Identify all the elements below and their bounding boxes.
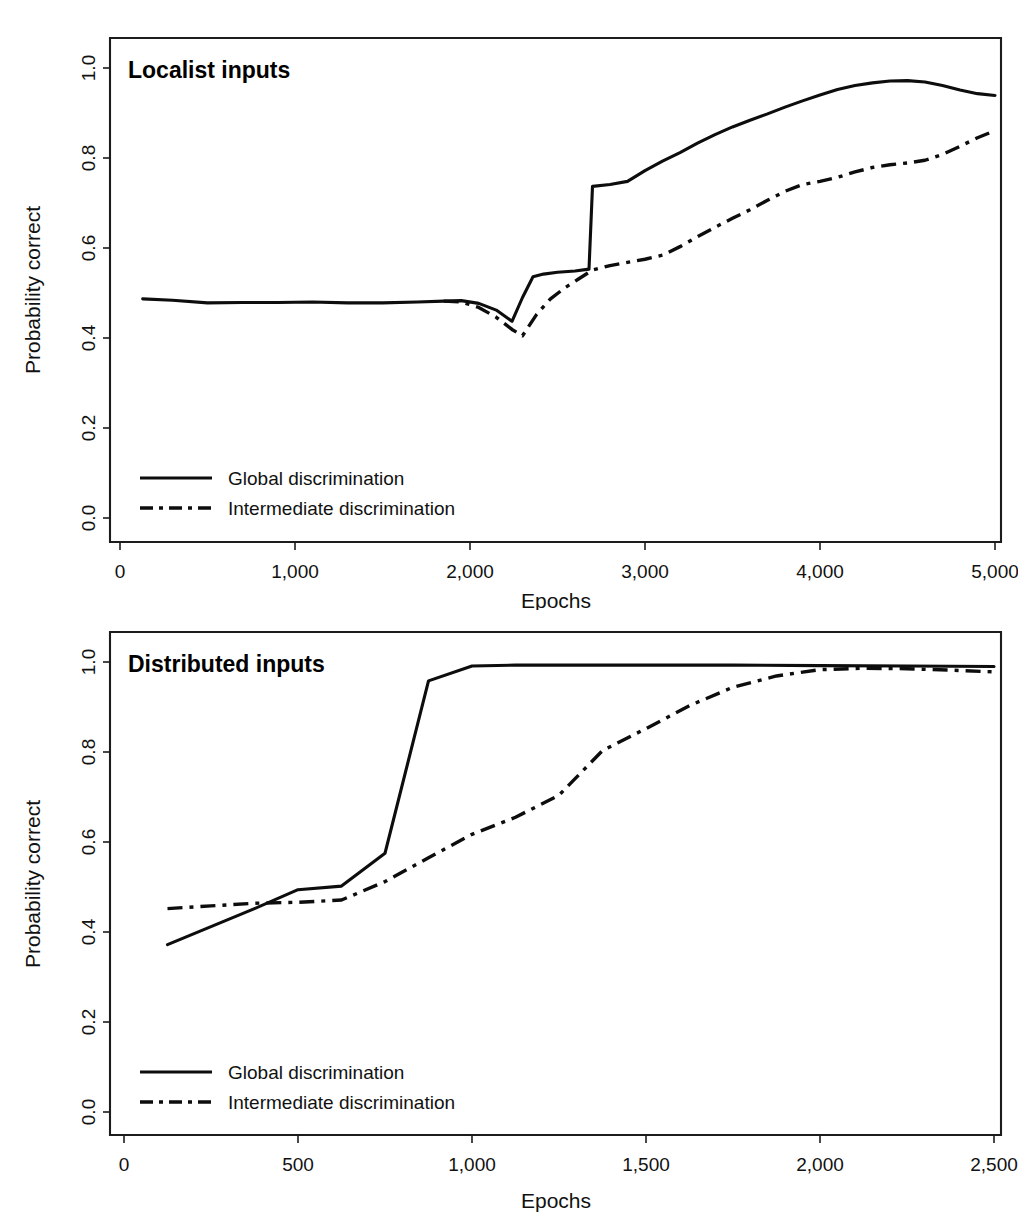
- legend-label-global: Global discrimination: [228, 468, 404, 489]
- series-line-intermediate-localist: [444, 131, 995, 336]
- plot-frame-distributed: [110, 632, 1001, 1135]
- chart-panel-localist: 1.0 0.8 0.6 0.4 0.2 0.0 Probability corr…: [0, 0, 1018, 610]
- panel-title-localist: Localist inputs: [128, 57, 290, 83]
- y-tick-label: 0.0: [78, 1099, 99, 1125]
- x-tick-label: 1,000: [271, 561, 319, 582]
- x-axis-tick-labels-distributed: 0 500 1,000 1,500 2,000 2,500: [119, 1154, 1018, 1175]
- x-tick-label: 0: [119, 1154, 130, 1175]
- localist-svg: 1.0 0.8 0.6 0.4 0.2 0.0 Probability corr…: [0, 0, 1018, 610]
- x-axis-tick-labels-localist: 0 1,000 2,000 3,000 4,000 5,000: [115, 561, 1018, 582]
- x-tick-label: 1,500: [622, 1154, 670, 1175]
- y-axis-title-localist: Probability correct: [21, 206, 44, 374]
- y-axis-tick-labels-distributed: 1.0 0.8 0.6 0.4 0.2 0.0: [78, 649, 99, 1125]
- x-tick-label: 4,000: [796, 561, 844, 582]
- x-tick-label: 5,000: [971, 561, 1018, 582]
- series-group-localist: [143, 81, 995, 336]
- x-axis-ticks-distributed: [124, 1135, 994, 1143]
- legend-label-intermediate: Intermediate discrimination: [228, 1092, 455, 1113]
- distributed-svg: 1.0 0.8 0.6 0.4 0.2 0.0 Probability corr…: [0, 594, 1018, 1230]
- chart-panel-distributed: 1.0 0.8 0.6 0.4 0.2 0.0 Probability corr…: [0, 594, 1018, 1230]
- x-tick-label: 2,000: [446, 561, 494, 582]
- plot-frame-localist: [110, 38, 1001, 542]
- y-tick-label: 0.8: [78, 145, 99, 171]
- x-tick-label: 2,000: [796, 1154, 844, 1175]
- legend-label-global: Global discrimination: [228, 1062, 404, 1083]
- x-tick-label: 2,500: [970, 1154, 1018, 1175]
- x-axis-ticks-localist: [120, 542, 995, 550]
- x-tick-label: 0: [115, 561, 126, 582]
- series-line-intermediate-distributed: [168, 668, 995, 908]
- y-tick-label: 1.0: [78, 649, 99, 675]
- y-tick-label: 0.2: [78, 415, 99, 441]
- y-tick-label: 0.4: [78, 324, 99, 351]
- panel-title-distributed: Distributed inputs: [128, 651, 325, 677]
- y-tick-label: 0.6: [78, 235, 99, 261]
- y-tick-label: 0.6: [78, 829, 99, 855]
- y-tick-label: 0.2: [78, 1009, 99, 1035]
- legend-distributed: Global discrimination Intermediate discr…: [140, 1062, 455, 1113]
- x-tick-label: 1,000: [448, 1154, 496, 1175]
- y-axis-title-distributed: Probability correct: [21, 800, 44, 968]
- y-tick-label: 0.0: [78, 505, 99, 531]
- legend-label-intermediate: Intermediate discrimination: [228, 498, 455, 519]
- legend-localist: Global discrimination Intermediate discr…: [140, 468, 455, 519]
- y-tick-label: 0.4: [78, 918, 99, 945]
- x-tick-label: 500: [282, 1154, 314, 1175]
- y-tick-label: 0.8: [78, 739, 99, 765]
- series-group-distributed: [168, 665, 995, 944]
- y-axis-tick-labels-localist: 1.0 0.8 0.6 0.4 0.2 0.0: [78, 55, 99, 531]
- y-tick-label: 1.0: [78, 55, 99, 81]
- x-axis-title-distributed: Epochs: [521, 1189, 591, 1212]
- figure-page: 1.0 0.8 0.6 0.4 0.2 0.0 Probability corr…: [0, 0, 1018, 1230]
- x-tick-label: 3,000: [621, 561, 669, 582]
